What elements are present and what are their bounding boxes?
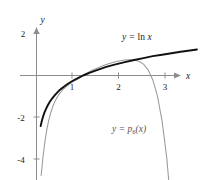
- x-axis-arrow-icon: [174, 73, 181, 79]
- ln-label-lhs: y: [121, 32, 127, 42]
- ln-label-eq: =: [129, 32, 134, 42]
- svg-text:y=lnx: y=lnx: [121, 32, 152, 42]
- y-tick-label-neg2: -2: [17, 113, 25, 123]
- ln-label-fn: ln: [138, 32, 146, 42]
- y-tick-label-2: 2: [21, 29, 26, 39]
- x-tick-label-3: 3: [163, 82, 168, 92]
- y-axis: [34, 27, 40, 180]
- x-axis-label: x: [185, 71, 191, 81]
- figure-container: 2 -2 -4 1 2 3 y x y=lnx y=p6(x): [0, 0, 203, 180]
- annotation-ln-curve: y=lnx: [121, 32, 152, 42]
- poly-label-eq: =: [119, 124, 124, 134]
- poly-label-lhs: y: [111, 124, 117, 134]
- x-axis: [20, 73, 181, 79]
- ln-label-arg: x: [146, 32, 152, 42]
- annotation-polynomial-curve: y=p6(x): [111, 124, 146, 135]
- graph-plot: 2 -2 -4 1 2 3 y x y=lnx y=p6(x): [0, 0, 203, 180]
- poly-label-arg: (x): [136, 124, 147, 135]
- curve-polynomial-p6: [41, 60, 180, 180]
- y-tick-label-neg4: -4: [17, 155, 25, 165]
- y-axis-label: y: [40, 15, 46, 25]
- x-tick-label-1: 1: [70, 82, 75, 92]
- x-tick-label-2: 2: [116, 82, 121, 92]
- svg-text:y=p6(x): y=p6(x): [111, 124, 146, 135]
